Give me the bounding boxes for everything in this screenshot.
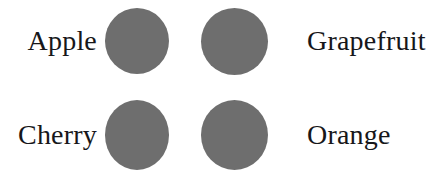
- diagram-row-apple-grapefruit: Apple Grapefruit: [0, 8, 446, 74]
- circle-cell-cherry: [105, 100, 192, 170]
- diagram-row-cherry-orange: Cherry Orange: [0, 100, 446, 170]
- circle-orange: [201, 100, 268, 170]
- label-apple: Apple: [0, 27, 105, 55]
- circle-apple: [105, 8, 169, 74]
- circle-grapefruit: [201, 8, 268, 75]
- circle-cell-orange: [192, 100, 279, 170]
- circle-cherry: [105, 100, 169, 170]
- circle-cell-apple: [105, 8, 192, 74]
- circle-cell-grapefruit: [192, 8, 279, 75]
- label-cherry: Cherry: [0, 121, 105, 149]
- label-grapefruit: Grapefruit: [279, 27, 439, 55]
- label-orange: Orange: [279, 121, 439, 149]
- fruit-circle-diagram: Apple Grapefruit Cherry Orange: [0, 0, 446, 183]
